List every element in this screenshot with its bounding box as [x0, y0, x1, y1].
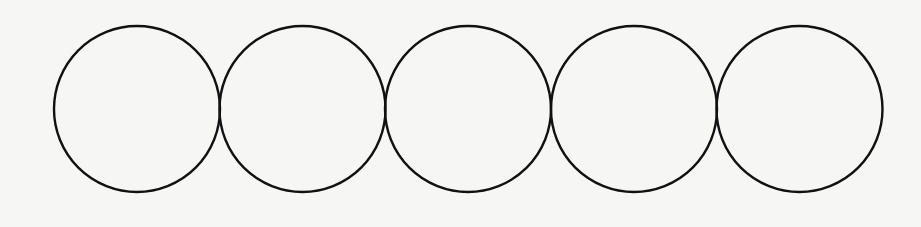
- circle-4: [551, 26, 717, 192]
- diagram-canvas: Five tangent circles in a row: [0, 0, 921, 227]
- circle-1: [54, 26, 220, 192]
- circles-diagram: [0, 0, 921, 227]
- circle-2: [220, 26, 386, 192]
- circle-5: [717, 26, 883, 192]
- circle-3: [385, 26, 551, 192]
